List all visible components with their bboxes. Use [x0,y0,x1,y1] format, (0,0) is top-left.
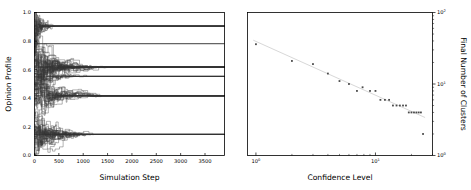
left-x-tick-label: 1500 [101,158,114,164]
right-y-axis-label: Final Number of Clusters [459,37,468,131]
scatter-point [405,105,407,107]
opinion-trajectory [35,35,225,57]
scatter-point [339,80,341,82]
opinion-trajectory [35,13,225,31]
scatter-point [312,63,314,65]
right-x-axis-label: Confidence Level [307,173,372,182]
right-y-tick-label: 101 [437,81,446,87]
opinion-trajectories [35,13,225,155]
right-x-axis-ticks: 100101 [251,153,432,165]
exponent: 0 [258,158,261,162]
scatter-point [396,105,398,107]
scatter-point [416,112,418,114]
left-x-tick-label: 3000 [174,158,187,164]
right-plot-frame [248,13,433,156]
opinion-trajectory [35,60,225,84]
scatter-point [369,90,371,92]
scatter-point [356,90,358,92]
scatter-point [375,90,377,92]
left-x-tick-label: 2500 [150,158,163,164]
figure-container: 0500100015002000250030003500 0.00.20.40.… [0,0,471,190]
opinion-trajectory [35,13,225,35]
scatter-point [420,112,422,114]
left-y-axis-label: Opinion Profile [4,56,13,112]
left-y-tick-label: 1.0 [23,9,31,15]
opinion-trajectory [35,24,225,36]
cluster-scatter-points [255,43,424,135]
opinion-trajectory [35,21,225,41]
opinion-trajectory [35,19,225,30]
scatter-point [362,86,364,88]
opinion-trajectory [35,21,225,53]
scatter-point [327,73,329,75]
left-y-tick-label: 0.6 [23,67,31,73]
opinion-trajectory [35,19,225,56]
opinion-trajectory [35,81,225,106]
left-y-tick-label: 0.2 [23,124,31,130]
exponent: 0 [444,152,447,156]
left-y-tick-label: 0.8 [23,38,31,44]
left-x-tick-label: 2000 [125,158,138,164]
left-x-axis-label: Simulation Step [99,173,159,182]
opinion-trajectory [35,17,225,49]
exponent: 1 [378,158,380,162]
opinion-trajectory [35,13,225,41]
opinion-trajectory [35,19,225,47]
left-x-tick-label: 1000 [77,158,90,164]
scatter-point [402,105,404,107]
left-x-tick-label: 500 [54,158,64,164]
right-y-tick-label: 100 [437,152,447,158]
left-x-axis-ticks: 0500100015002000250030003500 [33,153,212,164]
opinion-trajectory [35,89,225,119]
opinion-trajectory [35,56,225,85]
right-x-tick-label: 101 [371,158,380,164]
opinion-trajectory [35,32,225,47]
scatter-point [255,43,257,45]
figure-svg: 0500100015002000250030003500 0.00.20.40.… [0,0,471,190]
exponent: 2 [444,9,446,13]
scatter-point [408,112,410,114]
opinion-trajectory [35,14,225,34]
left-panel: 0500100015002000250030003500 0.00.20.40.… [4,9,225,182]
scatter-point [418,112,420,114]
opinion-trajectory [35,24,225,37]
scatter-point [380,99,382,101]
exponent: 1 [444,81,446,85]
scatter-point [384,99,386,101]
scatter-point [291,60,293,62]
left-x-tick-label: 3500 [198,158,211,164]
scatter-point [388,99,390,101]
right-y-tick-label: 102 [437,9,446,15]
right-y-axis-ticks: 100101102 [433,9,447,158]
scatter-point [348,83,350,85]
scatter-point [399,105,401,107]
scatter-point [392,105,394,107]
left-y-tick-label: 0.0 [23,152,31,158]
scatter-point [411,112,413,114]
scatter-point [422,133,424,135]
left-y-tick-label: 0.4 [23,95,32,101]
right-x-tick-label: 100 [251,158,261,164]
left-x-tick-label: 0 [33,158,36,164]
scatter-point [413,112,415,114]
opinion-trajectory [35,21,225,46]
opinion-trajectory [35,13,225,32]
right-panel: 100101 100101102 Confidence Level Final … [248,9,469,182]
